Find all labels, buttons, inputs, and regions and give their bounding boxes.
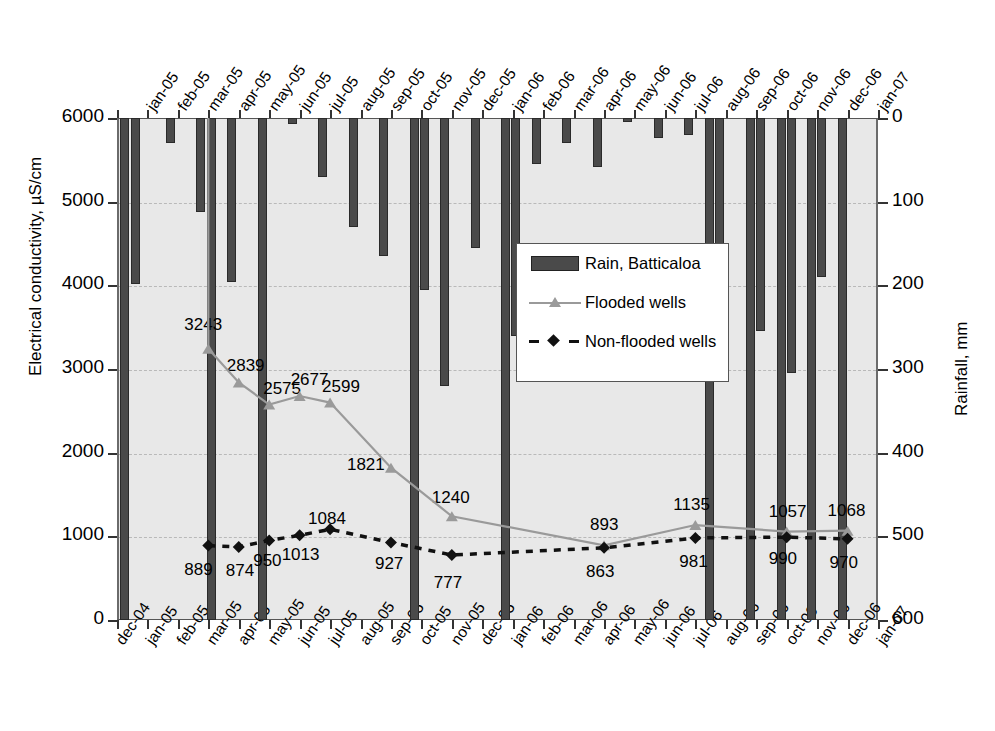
legend-label-flooded: Flooded wells	[585, 293, 686, 311]
legend-item-rain: Rain, Batticaloa	[527, 254, 720, 274]
nonflooded-marker	[446, 549, 458, 561]
legend-label-rain: Rain, Batticaloa	[585, 254, 701, 272]
flooded-marker	[202, 344, 214, 354]
chart-figure: Electrical conductivity, µS/cm Rainfall,…	[0, 0, 995, 731]
line-series	[0, 0, 995, 731]
line-triangle-swatch-icon	[527, 293, 585, 313]
nonflooded-marker	[202, 540, 214, 552]
nonflooded-marker	[233, 541, 245, 553]
nonflooded-marker	[689, 532, 701, 544]
legend-label-nonflooded: Non-flooded wells	[585, 332, 716, 350]
legend: Rain, Batticaloa Flooded wells Non-flood…	[516, 243, 729, 382]
dashed-diamond-swatch-icon	[527, 332, 585, 352]
nonflooded-marker	[294, 529, 306, 541]
nonflooded-marker	[324, 523, 336, 535]
nonflooded-marker	[385, 536, 397, 548]
bar-swatch-icon	[527, 254, 585, 274]
nonflooded-marker	[263, 535, 275, 547]
legend-item-nonflooded: Non-flooded wells	[527, 332, 720, 352]
nonflooded-marker	[781, 531, 793, 543]
nonflooded-line	[208, 529, 847, 555]
legend-item-flooded: Flooded wells	[527, 293, 720, 313]
